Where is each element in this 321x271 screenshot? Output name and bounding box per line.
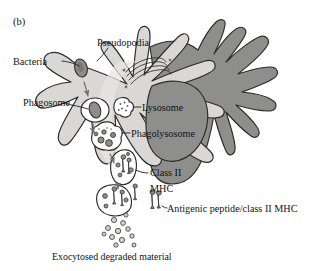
label-bacteria: Bacteria [13,56,47,67]
phagolysosome-vesicle [92,122,123,150]
figure-container: (b) Pseudopodia Bacteria Phagosome Lysos… [0,0,321,271]
label-phagolysosome: Phagolysosome [131,128,195,139]
label-pseudopodia: Pseudopodia [97,37,150,48]
panel-letter: (b) [13,16,26,28]
label-antigenic-peptide: Antigenic peptide/class II MHC [167,203,298,214]
label-class-ii: Class II [150,167,182,178]
exocytic-mhc-vesicle [97,185,132,216]
label-exocytosed-material: Exocytosed degraded material [52,251,172,262]
label-phagosome: Phagosome [23,97,70,108]
mhc-vesicle [111,150,137,185]
label-lysosome: Lysosome [142,102,184,113]
phagosome-vesicle [81,98,109,122]
macrophage-antigen-presentation-diagram: (b) Pseudopodia Bacteria Phagosome Lysos… [0,0,321,271]
label-mhc: MHC [150,183,173,194]
